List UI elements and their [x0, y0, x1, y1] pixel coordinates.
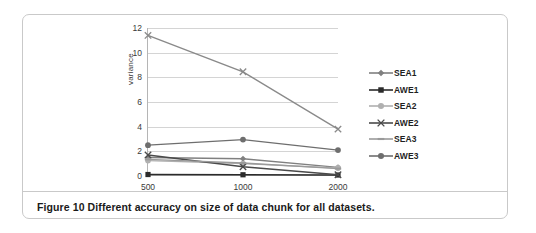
figure-caption: Figure 10 Different accuracy on size of …	[37, 201, 375, 213]
y-tick-label: 0	[137, 171, 142, 181]
data-point-marker	[335, 147, 341, 153]
legend-label: AWE1	[394, 85, 419, 95]
data-point-marker	[240, 137, 246, 143]
data-point-marker	[378, 153, 384, 159]
legend-item-sea2[interactable]: SEA2	[368, 98, 488, 115]
legend-marker-icon	[368, 67, 394, 79]
legend-item-sea3[interactable]: SEA3	[368, 131, 488, 148]
data-point-marker	[378, 70, 385, 77]
legend-item-awe1[interactable]: AWE1	[368, 82, 488, 99]
legend-item-awe3[interactable]: AWE3	[368, 148, 488, 165]
data-point-marker	[240, 172, 245, 177]
series-plot	[148, 28, 338, 176]
y-axis-title: variance	[126, 53, 135, 85]
data-point-marker	[145, 142, 151, 148]
data-point-marker	[335, 126, 341, 132]
legend-label: SEA1	[394, 68, 417, 78]
y-tick-label: 4	[137, 122, 142, 132]
y-tick-label: 12	[133, 23, 142, 33]
y-tick-label: 10	[133, 48, 142, 58]
legend-marker-icon	[368, 133, 394, 145]
data-point-marker	[145, 172, 150, 177]
chart-region: variance 024681012 50010002000 SEA1AWE1S…	[23, 15, 509, 191]
chart-legend: SEA1AWE1SEA2AWE2SEA3AWE3	[368, 65, 488, 164]
legend-label: SEA3	[394, 134, 417, 144]
series-line	[148, 35, 338, 129]
caption-divider	[23, 191, 507, 192]
y-tick-label: 8	[137, 72, 142, 82]
figure-frame: variance 024681012 50010002000 SEA1AWE1S…	[22, 14, 508, 219]
y-tick-label: 2	[137, 146, 142, 156]
legend-marker-icon	[368, 100, 394, 112]
data-point-marker	[378, 87, 383, 92]
legend-label: AWE2	[394, 118, 419, 128]
data-point-marker	[145, 32, 151, 38]
legend-item-sea1[interactable]: SEA1	[368, 65, 488, 82]
legend-marker-icon	[368, 117, 394, 129]
series-awe3	[145, 137, 341, 153]
legend-label: SEA2	[394, 101, 417, 111]
plot-area: 024681012 50010002000	[148, 28, 338, 176]
legend-marker-icon	[368, 84, 394, 96]
data-point-marker	[240, 69, 246, 75]
legend-marker-icon	[368, 150, 394, 162]
legend-item-awe2[interactable]: AWE2	[368, 115, 488, 132]
legend-label: AWE3	[394, 151, 419, 161]
series-awe3-high	[145, 32, 341, 132]
data-point-marker	[378, 103, 384, 109]
y-tick-label: 6	[137, 97, 142, 107]
